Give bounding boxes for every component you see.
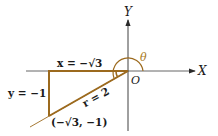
x-axis-label: X: [197, 64, 207, 78]
theta-label: θ: [140, 51, 147, 64]
x-side-label: x = −√3: [57, 57, 102, 69]
y-side-label: y = −1: [7, 87, 46, 99]
y-axis-label: Y: [124, 5, 133, 19]
diagram-canvas: Y X O θ x = −√3 y = −1 r = 2 (−√3, −1): [0, 0, 218, 136]
point-label: (−√3, −1): [51, 116, 107, 128]
origin-label: O: [131, 74, 140, 87]
